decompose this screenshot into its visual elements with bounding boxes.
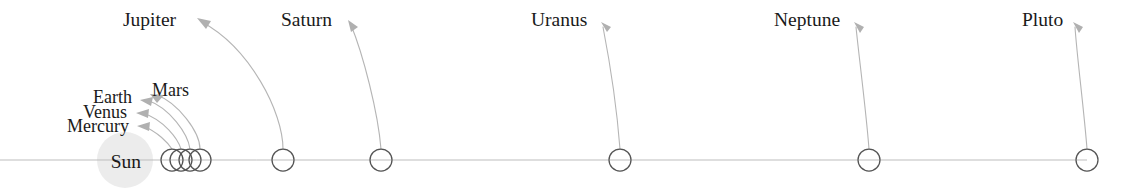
leader-saturn (351, 25, 381, 149)
leader-jupiter (202, 22, 283, 149)
label-uranus: Uranus (531, 10, 587, 30)
arrowhead-jupiter (197, 18, 211, 29)
leader-arrowheads (136, 18, 1083, 131)
solar-system-diagram: Sun Mercury Venus Earth Mars Jupiter Sat… (0, 0, 1140, 191)
label-earth: Earth (93, 88, 132, 106)
label-neptune: Neptune (774, 10, 840, 30)
label-jupiter: Jupiter (123, 10, 176, 30)
planet-circle-mars (189, 149, 211, 171)
label-saturn: Saturn (281, 10, 332, 30)
leader-mars (157, 95, 200, 149)
leader-earth (147, 100, 190, 149)
arrowhead-venus (136, 109, 149, 118)
leader-uranus (603, 27, 620, 149)
arrowhead-saturn (348, 20, 358, 32)
planet-circle-uranus (609, 149, 631, 171)
planet-circle-jupiter (272, 149, 294, 171)
leader-neptune (856, 27, 869, 149)
leader-lines (143, 22, 1087, 149)
planet-circle-neptune (858, 149, 880, 171)
planet-circle-saturn (370, 149, 392, 171)
label-mars: Mars (152, 81, 189, 99)
leader-pluto (1075, 27, 1087, 149)
label-pluto: Pluto (1022, 10, 1063, 30)
planet-circle-pluto (1076, 149, 1098, 171)
arrowhead-mercury (137, 122, 150, 131)
label-sun: Sun (111, 152, 141, 172)
leader-venus (143, 113, 181, 149)
